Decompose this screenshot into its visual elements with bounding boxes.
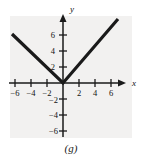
y-tick-label-neg6: −6 <box>49 126 58 136</box>
coordinate-graph: −6 −4 −2 2 4 6 6 4 2 −2 −4 −6 y x <box>0 0 142 140</box>
plot-area: −6 −4 −2 2 4 6 6 4 2 −2 −4 −6 y x <box>0 0 142 140</box>
y-tick-label-neg2: −2 <box>49 95 58 105</box>
x-tick-label-neg4: −4 <box>26 88 36 98</box>
x-tick-label-neg6: −6 <box>10 88 19 98</box>
y-tick-label-pos2: 2 <box>51 62 55 72</box>
y-tick-label-neg4: −4 <box>49 110 59 120</box>
y-axis-label: y <box>69 4 74 14</box>
x-tick-label-pos6: 6 <box>109 88 113 98</box>
x-axis-label: x <box>131 78 136 88</box>
figure-caption: (g) <box>0 142 142 154</box>
plot-background <box>10 16 132 138</box>
y-tick-label-pos6: 6 <box>51 30 55 40</box>
figure-container: −6 −4 −2 2 4 6 6 4 2 −2 −4 −6 y x (g) <box>0 0 142 166</box>
x-tick-label-pos2: 2 <box>77 88 81 98</box>
